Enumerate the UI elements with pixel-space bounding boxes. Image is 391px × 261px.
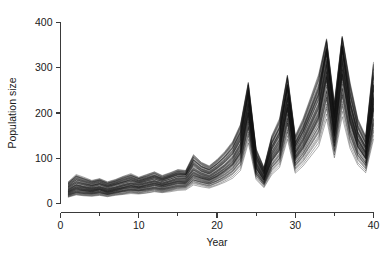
- y-tick-label: 100: [35, 152, 53, 164]
- y-tick-label: 300: [35, 61, 53, 73]
- y-tick-label: 400: [35, 16, 53, 28]
- x-tick-label: 40: [368, 219, 380, 231]
- chart-figure: 0100200300400010203040YearPopulation siz…: [0, 0, 391, 261]
- y-tick-label: 0: [47, 197, 53, 209]
- axis-labels: 0100200300400010203040YearPopulation siz…: [6, 16, 379, 248]
- population-size-line-chart: 0100200300400010203040YearPopulation siz…: [0, 0, 391, 261]
- data-lines: [68, 36, 373, 197]
- x-tick-label: 0: [58, 219, 64, 231]
- x-tick-label: 30: [289, 219, 301, 231]
- y-tick-label: 200: [35, 107, 53, 119]
- x-tick-label: 10: [133, 219, 145, 231]
- x-tick-label: 20: [211, 219, 223, 231]
- y-axis-title: Population size: [6, 77, 18, 148]
- x-axis-title: Year: [206, 236, 228, 248]
